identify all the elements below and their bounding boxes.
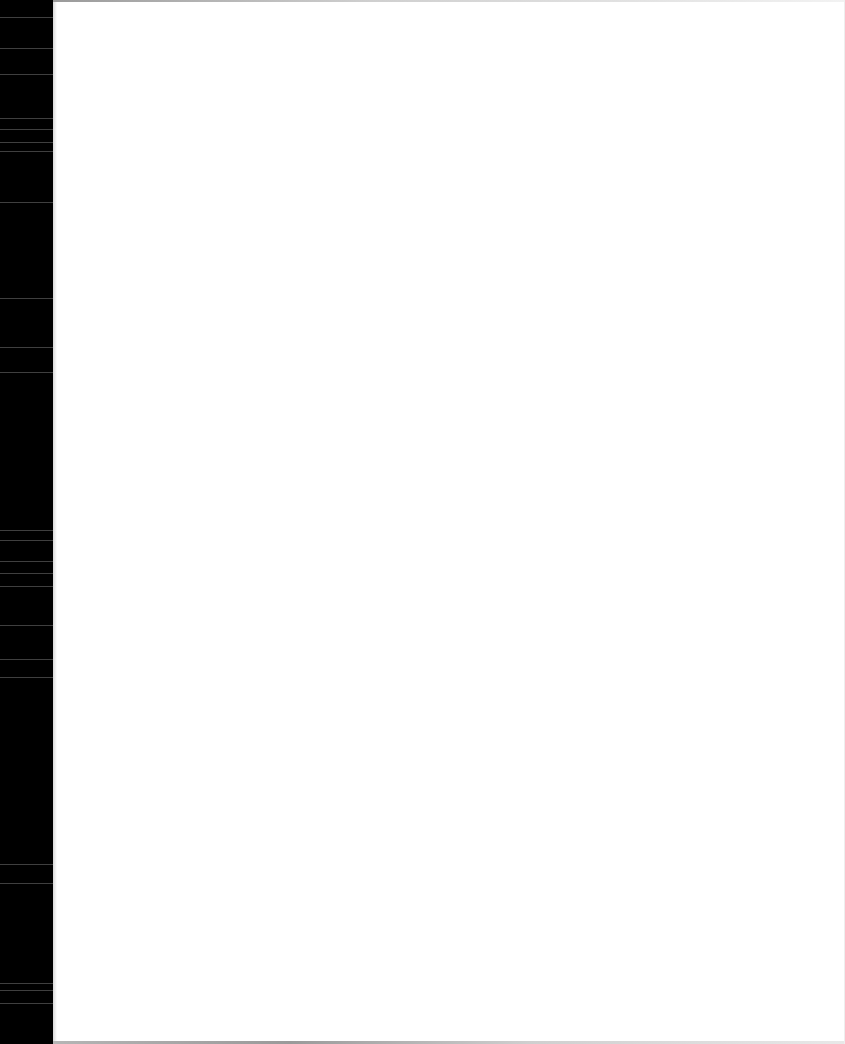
scan-streak	[0, 625, 53, 626]
scan-streak	[0, 530, 53, 531]
scan-streak	[0, 677, 53, 678]
scan-streak	[0, 347, 53, 348]
scan-streak	[0, 129, 53, 130]
scan-streak	[0, 74, 53, 75]
scan-streak	[0, 659, 53, 660]
scan-streak	[0, 151, 53, 152]
scan-streak	[0, 990, 53, 991]
scan-streak	[0, 17, 53, 18]
scan-streak	[0, 983, 53, 984]
scan-streak	[0, 298, 53, 299]
scan-streak	[0, 864, 53, 865]
scan-streak	[0, 1003, 53, 1004]
scan-streak	[0, 372, 53, 373]
scan-streak	[0, 561, 53, 562]
scan-streak	[0, 586, 53, 587]
scan-streak	[0, 883, 53, 884]
scan-streak	[0, 573, 53, 574]
scanned-page	[0, 0, 845, 1044]
scan-streak	[0, 118, 53, 119]
scan-streak	[0, 202, 53, 203]
scan-streak	[0, 142, 53, 143]
scan-streak	[0, 540, 53, 541]
page-body	[57, 2, 844, 1041]
scan-streak	[0, 48, 53, 49]
scanner-black-edge	[0, 0, 53, 1044]
